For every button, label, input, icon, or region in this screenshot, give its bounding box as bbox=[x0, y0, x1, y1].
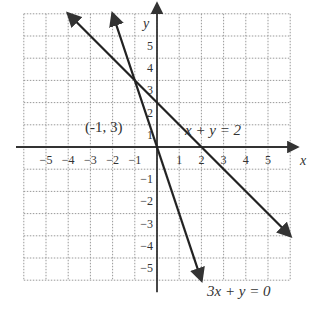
equation-label-2: 3x + y = 0 bbox=[206, 283, 271, 299]
svg-text:−3: −3 bbox=[84, 153, 97, 167]
svg-text:3: 3 bbox=[221, 153, 227, 167]
x-axis-label: x bbox=[299, 153, 307, 168]
tick-labels: −5−4−3−2−11234554321−1−2−3−4−5 bbox=[40, 39, 271, 275]
svg-text:−3: −3 bbox=[140, 217, 153, 231]
svg-text:4: 4 bbox=[147, 61, 153, 75]
y-axis-label: y bbox=[141, 16, 150, 31]
svg-text:2: 2 bbox=[198, 153, 204, 167]
svg-text:1: 1 bbox=[176, 153, 182, 167]
equation-label-1: x + y = 2 bbox=[184, 122, 242, 138]
svg-text:−4: −4 bbox=[62, 153, 75, 167]
point-label: (-1, 3) bbox=[85, 119, 123, 136]
svg-text:−1: −1 bbox=[140, 172, 153, 186]
svg-text:−2: −2 bbox=[140, 194, 153, 208]
svg-text:5: 5 bbox=[147, 39, 153, 53]
svg-text:4: 4 bbox=[243, 153, 249, 167]
svg-text:−4: −4 bbox=[140, 239, 153, 253]
svg-text:−1: −1 bbox=[128, 153, 141, 167]
svg-text:−2: −2 bbox=[106, 153, 119, 167]
svg-text:5: 5 bbox=[265, 153, 271, 167]
svg-text:−5: −5 bbox=[40, 153, 53, 167]
svg-text:−5: −5 bbox=[140, 261, 153, 275]
coordinate-plane: −5−4−3−2−11234554321−1−2−3−4−5 x y (-1, … bbox=[0, 0, 318, 331]
